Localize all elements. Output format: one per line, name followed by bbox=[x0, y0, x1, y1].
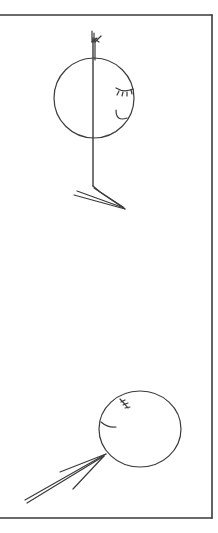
frame bbox=[0, 15, 212, 518]
closed-eye-icon bbox=[120, 399, 130, 408]
legs bbox=[74, 186, 125, 209]
smile-icon bbox=[116, 110, 127, 119]
head bbox=[99, 391, 181, 467]
closed-eye-icon bbox=[116, 88, 133, 96]
figure-bottom bbox=[25, 391, 181, 503]
smile-icon bbox=[101, 422, 116, 427]
drawing-canvas bbox=[0, 0, 218, 533]
figure-top bbox=[54, 31, 134, 209]
head bbox=[54, 58, 134, 138]
legs bbox=[25, 454, 106, 503]
